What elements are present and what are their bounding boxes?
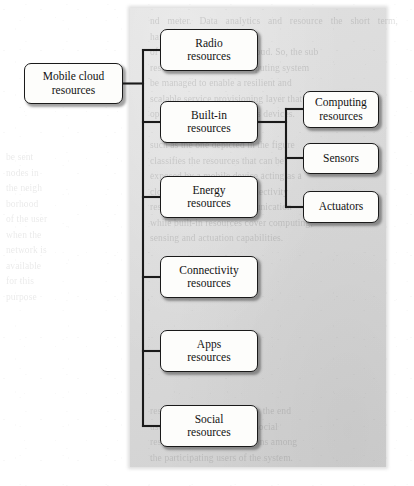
scanned-page: be sent nodes in the neigh borhood of th… (0, 0, 414, 486)
node-label-line2: resources (187, 50, 230, 64)
node-connectivity-resources[interactable]: Connectivity resources (160, 256, 258, 298)
node-label-line1: Social (195, 413, 224, 427)
figure-panel (130, 8, 386, 467)
node-social-resources[interactable]: Social resources (160, 405, 258, 447)
node-sensors[interactable]: Sensors (303, 143, 379, 174)
node-label-line1: Computing (315, 96, 367, 110)
node-label-line1: Built-in (191, 109, 227, 123)
node-label-line1: Energy (192, 184, 225, 198)
node-label-line2: resources (187, 426, 230, 440)
node-label-line2: resources (187, 122, 230, 136)
node-radio-resources[interactable]: Radio resources (160, 29, 258, 71)
node-label-line1: Radio (195, 37, 222, 51)
node-label-line1: Connectivity (179, 264, 238, 278)
node-label-line2: resources (187, 277, 230, 291)
node-label-line2: resources (187, 351, 230, 365)
node-computing-resources[interactable]: Computing resources (303, 91, 379, 128)
node-label-line2: resources (187, 197, 230, 211)
node-label-line1: Sensors (323, 152, 359, 166)
node-label-line2: resources (52, 84, 95, 98)
node-energy-resources[interactable]: Energy resources (160, 176, 258, 218)
node-apps-resources[interactable]: Apps resources (160, 330, 258, 372)
node-label-line1: Actuators (319, 200, 364, 214)
node-actuators[interactable]: Actuators (303, 191, 379, 223)
node-built-in-resources[interactable]: Built-in resources (160, 101, 258, 143)
background-bleed-text-left: be sent nodes in the neigh borhood of th… (6, 150, 126, 305)
node-label-line1: Mobile cloud (43, 70, 105, 84)
node-mobile-cloud-resources[interactable]: Mobile cloud resources (24, 63, 123, 104)
node-label-line2: resources (319, 110, 362, 124)
node-label-line1: Apps (197, 338, 221, 352)
